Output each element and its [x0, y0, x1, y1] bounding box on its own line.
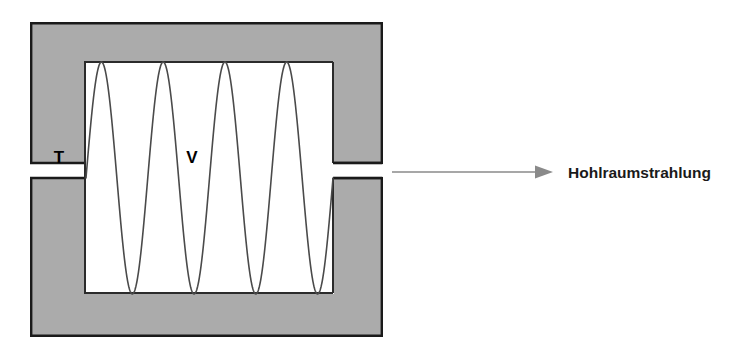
label-temperature: T	[54, 148, 65, 167]
radiation-caption: Hohlraumstrahlung	[568, 164, 711, 181]
label-volume: V	[186, 148, 198, 167]
diagram-canvas: T V Hohlraumstrahlung	[0, 0, 750, 359]
hohlraum-diagram: T V Hohlraumstrahlung	[0, 0, 750, 359]
cavity-aperture-slit	[332, 164, 384, 177]
radiation-arrow-head	[535, 166, 553, 179]
